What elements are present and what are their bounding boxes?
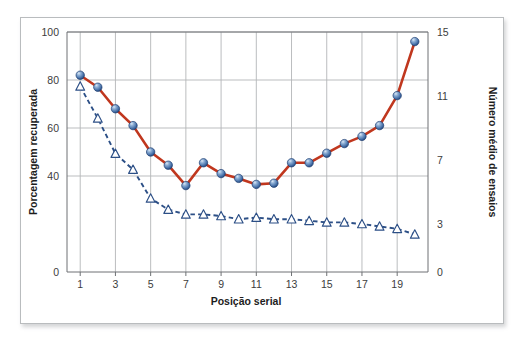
x-tick-label: 13 <box>286 278 298 290</box>
blue-circle-marker <box>411 37 419 45</box>
blue-triangle-marker <box>93 114 102 122</box>
y-right-tick-label: 11 <box>437 90 448 102</box>
blue-circle-marker <box>217 169 225 177</box>
x-tick-label: 1 <box>77 278 83 290</box>
x-tick-label: 9 <box>218 278 224 290</box>
blue-triangle-marker <box>287 215 296 223</box>
blue-triangle-marker <box>217 211 226 219</box>
series-porcentagem-recuperada <box>76 37 419 189</box>
x-tick-label: 3 <box>113 278 119 290</box>
y-axis-right-ticks: 0371115 <box>437 26 449 278</box>
blue-circle-marker <box>234 174 242 182</box>
blue-triangle-marker <box>410 230 419 238</box>
plot-area-wrapper: 135791113151719 0406080100 0371115 Posiç… <box>0 0 522 342</box>
gridlines <box>67 32 428 272</box>
blue-triangle-marker <box>234 215 243 223</box>
blue-circle-marker <box>358 132 366 140</box>
x-tick-label: 7 <box>183 278 189 290</box>
blue-circle-marker <box>287 159 295 167</box>
blue-triangle-marker <box>358 219 367 227</box>
y-left-tick-label: 100 <box>41 26 59 38</box>
axis-lines <box>67 32 428 272</box>
series-numero-medio-de-ensaios <box>76 82 419 238</box>
x-tick-label: 5 <box>148 278 154 290</box>
line-chart: 135791113151719 0406080100 0371115 Posiç… <box>0 0 522 342</box>
x-axis-title: Posição serial <box>211 295 282 307</box>
x-axis-ticks: 135791113151719 <box>77 272 403 290</box>
y-left-tick-label: 0 <box>53 266 59 278</box>
x-tick-label: 11 <box>251 278 262 290</box>
red-solid-line <box>80 42 415 186</box>
y-left-tick-label: 40 <box>47 170 59 182</box>
blue-circle-marker <box>129 121 137 129</box>
y-axis-left-ticks: 0406080100 <box>41 26 59 278</box>
blue-circle-marker <box>94 83 102 91</box>
y-right-tick-label: 7 <box>437 154 443 166</box>
blue-triangle-marker <box>111 149 120 157</box>
blue-circle-marker <box>164 161 172 169</box>
x-tick-label: 15 <box>321 278 333 290</box>
x-tick-label: 19 <box>391 278 403 290</box>
y-left-tick-label: 60 <box>47 122 59 134</box>
blue-circle-marker <box>340 139 348 147</box>
y-left-tick-label: 80 <box>47 74 59 86</box>
blue-circle-marker <box>393 91 401 99</box>
blue-circle-marker <box>111 105 119 113</box>
y-right-tick-label: 0 <box>437 266 443 278</box>
blue-dashed-line <box>80 86 415 234</box>
blue-circle-marker <box>375 121 383 129</box>
y-axis-right-title: Número médio de ensaios <box>487 87 499 218</box>
y-right-tick-label: 15 <box>437 26 449 38</box>
blue-triangle-marker <box>164 205 173 213</box>
blue-triangle-marker <box>76 82 85 90</box>
blue-circle-marker <box>182 181 190 189</box>
blue-circle-marker <box>305 159 313 167</box>
blue-circle-marker <box>199 159 207 167</box>
blue-circle-marker <box>76 71 84 79</box>
blue-triangle-marker <box>146 194 155 202</box>
y-axis-left-title: Porcentagem recuperada <box>27 89 39 215</box>
blue-circle-marker <box>270 179 278 187</box>
x-tick-label: 17 <box>356 278 368 290</box>
blue-circle-marker <box>323 149 331 157</box>
blue-triangle-marker <box>393 224 402 232</box>
y-right-tick-label: 3 <box>437 218 443 230</box>
blue-circle-marker <box>252 180 260 188</box>
chart-figure: 135791113151719 0406080100 0371115 Posiç… <box>0 0 522 342</box>
blue-circle-marker <box>146 148 154 156</box>
